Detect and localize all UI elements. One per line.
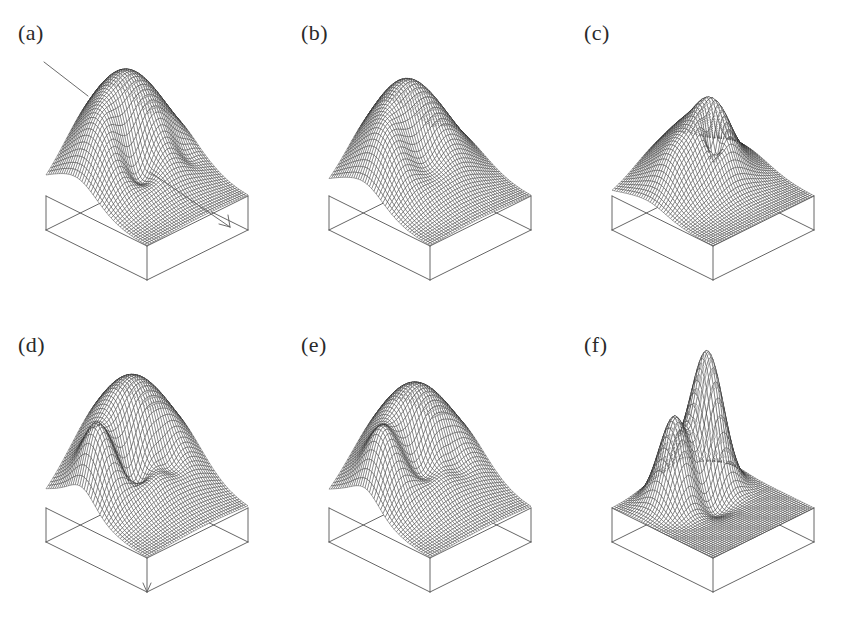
panel-e: (e): [283, 312, 566, 624]
panel-label-b: (b): [301, 22, 328, 44]
panel-a: (a): [0, 0, 283, 312]
panel-b: (b): [283, 0, 566, 312]
surface-pointer-line: [44, 62, 88, 96]
panel-label-d: (d): [18, 334, 45, 356]
surface-mesh-a: [0, 0, 283, 312]
surface-mesh-f: [566, 312, 849, 624]
surface-mesh-e: [283, 312, 566, 624]
box-base-front-right-a: [147, 230, 248, 280]
box-base-front-left-e: [329, 542, 430, 592]
box-base-front-left-d: [46, 542, 147, 592]
panel-c: (c): [566, 0, 849, 312]
panel-label-f: (f): [584, 334, 607, 356]
panel-label-c: (c): [584, 22, 610, 44]
surface-plot-figure: (a)(b)(c)(d)(e)(f): [0, 0, 849, 624]
box-base-front-left-b: [329, 230, 430, 280]
surface-mesh-c: [566, 0, 849, 312]
mesh-group-e: [329, 382, 531, 557]
box-base-front-right-d: [147, 542, 248, 592]
panel-f: (f): [566, 312, 849, 624]
panel-d: (d): [0, 312, 283, 624]
mesh-group-b: [329, 78, 531, 245]
mesh-group-d: [46, 374, 248, 557]
box-base-front-right-b: [430, 230, 531, 280]
surface-mesh-d: [0, 312, 283, 624]
box-base-front-left-a: [46, 230, 147, 280]
panel-label-a: (a): [18, 22, 44, 44]
panel-label-e: (e): [301, 334, 327, 356]
box-base-front-right-e: [430, 542, 531, 592]
mesh-group-c: [612, 97, 814, 246]
surface-mesh-b: [283, 0, 566, 312]
